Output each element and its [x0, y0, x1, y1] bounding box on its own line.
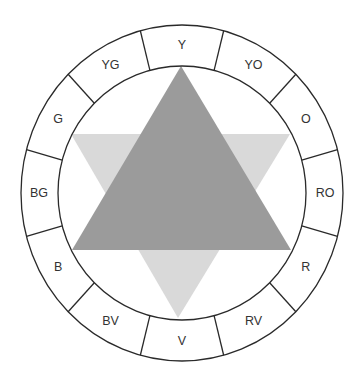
segment-divider — [68, 74, 94, 103]
segment-label-ro: RO — [316, 186, 335, 200]
segment-divider — [270, 74, 296, 103]
segment-label-b: B — [54, 260, 62, 274]
segment-label-rv: RV — [245, 314, 263, 328]
segment-divider — [68, 283, 94, 312]
segment-divider — [270, 283, 296, 312]
segment-label-bg: BG — [30, 186, 48, 200]
segment-label-r: R — [301, 260, 310, 274]
segment-label-v: V — [178, 334, 187, 348]
segment-divider — [302, 226, 338, 237]
segment-divider — [302, 150, 338, 161]
segment-label-bv: BV — [102, 314, 119, 328]
triangles-group — [71, 66, 291, 318]
color-wheel-diagram: YYOORORRVVBVBBGGYG — [0, 0, 360, 375]
segment-label-o: O — [301, 112, 311, 126]
segment-divider — [140, 31, 150, 71]
segment-divider — [214, 316, 224, 356]
segment-label-yo: YO — [244, 58, 262, 72]
segment-divider — [214, 31, 224, 71]
segment-label-g: G — [53, 112, 63, 126]
segment-divider — [26, 150, 62, 161]
segment-divider — [140, 316, 150, 356]
segment-label-yg: YG — [101, 58, 119, 72]
segment-label-y: Y — [178, 38, 187, 52]
segment-divider — [26, 226, 62, 237]
